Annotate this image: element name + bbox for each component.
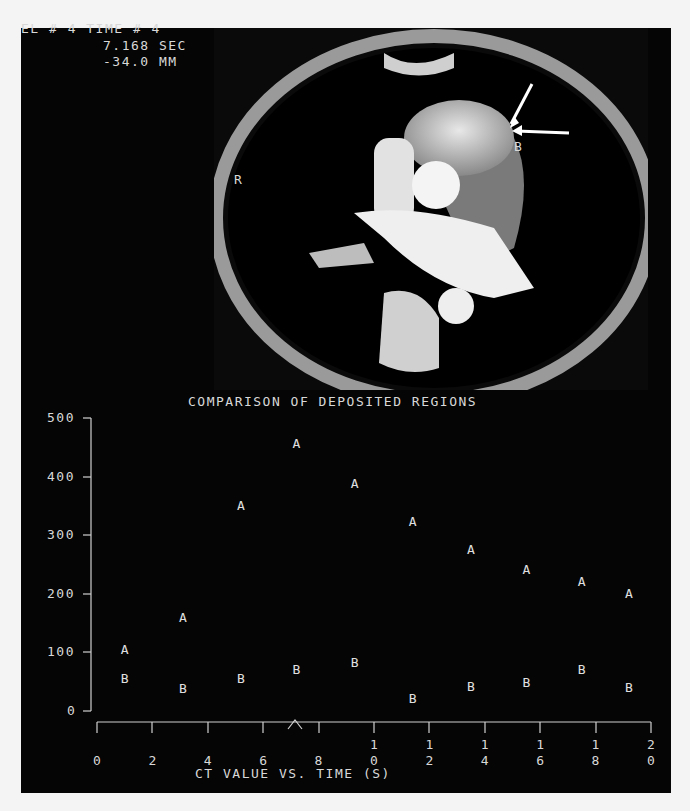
time-marker-caret <box>288 720 302 729</box>
x-tick-20: 2 0 <box>647 737 656 769</box>
y-tick-100: 100 <box>47 645 75 659</box>
point-b: B <box>467 678 475 693</box>
y-tick-0: 0 <box>67 704 76 718</box>
point-a: A <box>179 610 187 625</box>
point-b: B <box>625 679 633 694</box>
point-a: A <box>351 476 359 491</box>
point-a: A <box>237 497 245 512</box>
point-a: A <box>467 542 475 557</box>
point-b: B <box>351 654 359 669</box>
x-tick-18: 1 8 <box>592 737 601 769</box>
x-axis-label: CT VALUE VS. TIME (S) <box>195 767 391 781</box>
x-tick-12: 1 2 <box>425 737 434 769</box>
point-a: A <box>522 562 530 577</box>
point-b: B <box>578 661 586 676</box>
point-b: B <box>293 661 301 676</box>
point-a: A <box>409 514 417 529</box>
x-tick-16: 1 6 <box>536 737 545 769</box>
point-b: B <box>237 671 245 686</box>
point-b: B <box>522 675 530 690</box>
x-tick-14: 1 4 <box>481 737 490 769</box>
y-tick-400: 400 <box>47 470 75 484</box>
x-tick-2: 2 <box>148 753 157 769</box>
y-tick-500: 500 <box>47 411 75 425</box>
x-tick-10: 1 0 <box>370 737 379 769</box>
point-b: B <box>409 691 417 706</box>
x-tick-0: 0 <box>93 753 102 769</box>
point-a: A <box>625 586 633 601</box>
point-a: A <box>121 641 129 656</box>
point-a: A <box>578 573 586 588</box>
y-tick-300: 300 <box>47 528 75 542</box>
point-b: B <box>121 671 129 686</box>
chart-axes <box>0 0 690 811</box>
point-a: A <box>293 435 301 450</box>
point-b: B <box>179 681 187 696</box>
y-tick-200: 200 <box>47 587 75 601</box>
